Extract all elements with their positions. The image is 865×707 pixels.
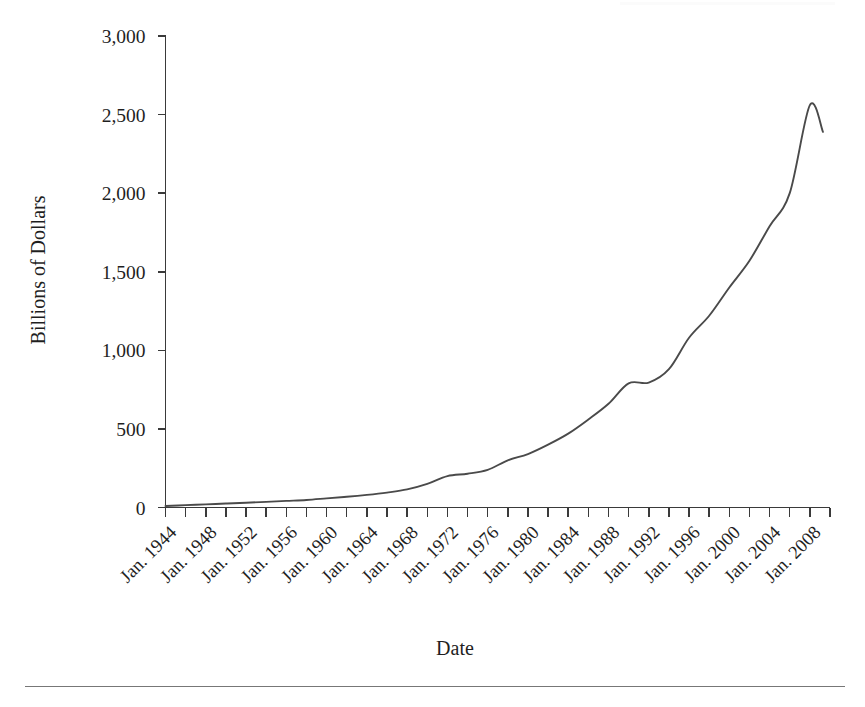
x-axis-ticks	[166, 508, 831, 517]
y-tick-label: 1,500	[102, 262, 146, 283]
x-axis-tick-labels: Jan. 1944Jan. 1948Jan. 1952Jan. 1956Jan.…	[116, 522, 825, 586]
y-tick-label: 2,000	[102, 183, 146, 204]
line-chart: Billions of Dollars Date 05001,0001,5002…	[0, 0, 865, 707]
y-tick-label: 1,000	[102, 340, 146, 361]
y-tick-label: 2,500	[102, 105, 146, 126]
data-series-line	[166, 103, 823, 506]
y-tick-label: 3,000	[102, 26, 146, 47]
y-axis-title: Billions of Dollars	[27, 195, 49, 344]
x-axis-title: Date	[436, 637, 474, 659]
y-tick-label: 500	[116, 419, 145, 440]
figure-page: Billions of Dollars Date 05001,0001,5002…	[0, 0, 865, 707]
y-tick-label: 0	[136, 498, 146, 519]
y-axis-ticks: 05001,0001,5002,0002,5003,000	[102, 26, 166, 519]
